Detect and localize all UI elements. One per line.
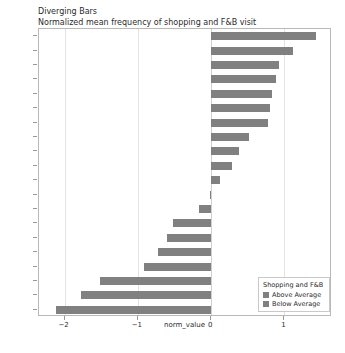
bar xyxy=(56,306,211,314)
bar xyxy=(100,277,211,285)
plot-area xyxy=(38,28,331,316)
y-axis-tick xyxy=(33,179,37,180)
legend-title: Shopping and F&B xyxy=(263,281,325,289)
bar xyxy=(158,248,211,256)
gridline xyxy=(284,29,285,315)
chart-title: Diverging Bars xyxy=(38,6,256,17)
chart-title-block: Diverging Bars Normalized mean frequency… xyxy=(38,6,256,28)
y-axis-tick xyxy=(33,150,37,151)
bar xyxy=(211,61,278,69)
x-axis-tick-label: 0 xyxy=(208,321,212,329)
bar xyxy=(81,291,211,299)
y-axis-tick xyxy=(33,294,37,295)
bar xyxy=(211,162,232,170)
legend-swatch xyxy=(263,301,269,307)
bar xyxy=(199,205,211,213)
y-axis-tick xyxy=(33,107,37,108)
legend-entries: Above AverageBelow Average xyxy=(263,291,325,308)
bar xyxy=(211,119,267,127)
x-axis-tick xyxy=(64,316,65,320)
y-axis-tick xyxy=(33,237,37,238)
gridline xyxy=(138,29,139,315)
bar xyxy=(144,263,211,271)
y-axis-tick xyxy=(33,194,37,195)
legend-label: Below Average xyxy=(272,300,320,308)
diverging-bar-chart: Diverging Bars Normalized mean frequency… xyxy=(0,0,345,353)
bar xyxy=(211,90,272,98)
zero-line xyxy=(211,29,212,315)
bar xyxy=(211,176,220,184)
x-axis-tick xyxy=(137,316,138,320)
y-axis-tick xyxy=(33,93,37,94)
y-axis-tick xyxy=(33,208,37,209)
x-axis-tick xyxy=(210,316,211,320)
bar xyxy=(211,147,239,155)
bar xyxy=(211,47,293,55)
bar xyxy=(173,219,211,227)
y-axis-tick xyxy=(33,251,37,252)
bar xyxy=(210,191,211,199)
x-axis-tick-label: 1 xyxy=(281,321,285,329)
bar xyxy=(211,104,270,112)
chart-subtitle: Normalized mean frequency of shopping an… xyxy=(38,17,256,28)
y-axis-tick xyxy=(33,136,37,137)
bar xyxy=(211,75,275,83)
x-axis-title: norm_value xyxy=(164,321,205,329)
y-axis-tick xyxy=(33,122,37,123)
x-axis-tick-label: −1 xyxy=(132,321,142,329)
x-axis-tick-label: −2 xyxy=(58,321,68,329)
y-axis-tick xyxy=(33,280,37,281)
gridline xyxy=(65,29,66,315)
legend-entry: Above Average xyxy=(263,291,325,299)
legend: Shopping and F&B Above AverageBelow Aver… xyxy=(258,277,330,312)
y-axis-tick xyxy=(33,165,37,166)
y-axis-tick xyxy=(33,222,37,223)
bar xyxy=(167,234,211,242)
legend-label: Above Average xyxy=(272,291,321,299)
y-axis-tick xyxy=(33,50,37,51)
bar xyxy=(211,32,316,40)
x-axis-tick xyxy=(283,316,284,320)
bar xyxy=(211,133,249,141)
legend-entry: Below Average xyxy=(263,300,325,308)
legend-swatch xyxy=(263,292,269,298)
y-axis-tick xyxy=(33,309,37,310)
y-axis-tick xyxy=(33,78,37,79)
y-axis-tick xyxy=(33,64,37,65)
y-axis-tick xyxy=(33,266,37,267)
y-axis-tick xyxy=(33,35,37,36)
